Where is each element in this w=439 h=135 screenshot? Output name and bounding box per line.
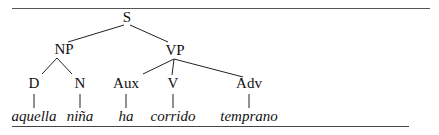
node-d: D <box>29 76 40 91</box>
word-temprano: temprano <box>220 109 278 124</box>
edge-np-n <box>57 58 72 74</box>
edge-s-vp <box>130 25 168 42</box>
word-corrido: corrido <box>151 109 196 124</box>
edge-vp-adv <box>174 59 243 77</box>
word-ha: ha <box>119 109 134 124</box>
node-s: S <box>123 10 131 25</box>
node-n: N <box>75 76 86 91</box>
node-vp: VP <box>165 43 184 58</box>
edge-vp-aux <box>143 59 174 74</box>
node-aux: Aux <box>113 76 139 91</box>
edge-s-np <box>68 25 124 42</box>
edge-vp-v <box>172 59 174 75</box>
word-aquella: aquella <box>12 109 57 124</box>
bottom-rule <box>12 126 209 127</box>
word-nina: niña <box>67 109 94 124</box>
node-np: NP <box>54 42 73 57</box>
edge-np-d <box>42 58 57 74</box>
node-v: V <box>168 76 179 91</box>
bottom-rule-right <box>209 126 409 127</box>
node-adv: Adv <box>236 76 262 91</box>
